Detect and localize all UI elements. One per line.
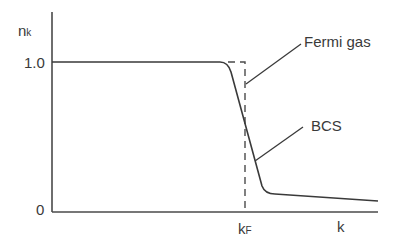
x-tick-kf: kF: [238, 221, 252, 236]
x-tick-kf-sub: F: [246, 225, 252, 236]
y-axis-label: nk: [18, 23, 31, 38]
fermi-gas-annotation: Fermi gas: [304, 34, 371, 49]
y-axis-label-sub: k: [26, 27, 31, 38]
x-axis-label: k: [337, 219, 345, 234]
bcs-leader: [255, 127, 303, 161]
y-tick-1: 1.0: [24, 55, 45, 70]
x-tick-kf-main: k: [238, 220, 246, 237]
fermi-gas-step: [228, 62, 245, 212]
bcs-annotation: BCS: [311, 118, 342, 133]
fermi-gas-leader: [246, 44, 301, 84]
y-tick-0: 0: [36, 202, 44, 217]
